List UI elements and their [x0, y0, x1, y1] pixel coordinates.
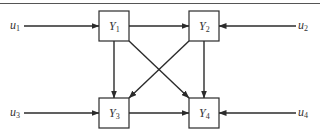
input-u3-label: u3 [10, 105, 20, 120]
block-diagram: Y1 Y2 Y3 Y4 u1 u2 u3 u4 [0, 0, 320, 137]
input-u4-label: u4 [298, 105, 308, 120]
input-u2-label: u2 [298, 18, 308, 33]
input-u1-label: u1 [10, 18, 20, 33]
